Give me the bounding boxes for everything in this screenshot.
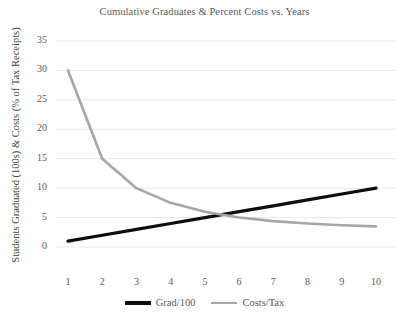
y-tick-label: 35 xyxy=(21,34,47,45)
y-tick-label: 20 xyxy=(21,122,47,133)
x-tick-label: 4 xyxy=(159,276,183,287)
y-tick-label: 30 xyxy=(21,63,47,74)
legend-entry-costs-tax[interactable]: Costs/Tax xyxy=(211,297,284,308)
plot-area xyxy=(0,0,409,323)
legend-entry-grad-100[interactable]: Grad/100 xyxy=(125,297,196,308)
x-tick-label: 7 xyxy=(261,276,285,287)
y-tick-label: 15 xyxy=(21,152,47,163)
x-tick-label: 10 xyxy=(364,276,388,287)
y-tick-label: 5 xyxy=(21,211,47,222)
chart-legend: Grad/100Costs/Tax xyxy=(0,297,409,308)
series-lines xyxy=(68,70,376,241)
x-tick-label: 3 xyxy=(124,276,148,287)
series-line-costs-tax xyxy=(68,70,376,226)
chart-container: Cumulative Graduates & Percent Costs vs.… xyxy=(0,0,409,323)
x-tick-label: 8 xyxy=(296,276,320,287)
x-tick-label: 5 xyxy=(193,276,217,287)
y-tick-label: 25 xyxy=(21,93,47,104)
legend-swatch-icon xyxy=(211,302,237,304)
y-tick-label: 0 xyxy=(21,240,47,251)
legend-label: Grad/100 xyxy=(156,297,196,308)
x-tick-label: 9 xyxy=(330,276,354,287)
x-tick-label: 6 xyxy=(227,276,251,287)
x-tick-label: 2 xyxy=(90,276,114,287)
x-tick-label: 1 xyxy=(56,276,80,287)
legend-swatch-icon xyxy=(125,301,151,305)
legend-label: Costs/Tax xyxy=(242,297,284,308)
y-tick-label: 10 xyxy=(21,181,47,192)
